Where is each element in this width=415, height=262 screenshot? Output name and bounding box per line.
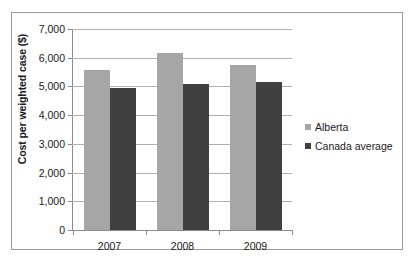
x-tick-label: 2008 bbox=[171, 240, 194, 252]
bar-alberta-2007 bbox=[84, 70, 110, 230]
y-tick-mark bbox=[68, 144, 72, 145]
x-tick-2008: 2008 bbox=[146, 236, 219, 254]
y-tick-label: 4,000 bbox=[39, 109, 65, 121]
x-tick-2007: 2007 bbox=[73, 236, 146, 254]
y-tick-label: 0 bbox=[59, 224, 65, 236]
legend-item-canada-average: Canada average bbox=[305, 140, 393, 152]
x-tick-mark bbox=[292, 230, 293, 235]
bar-group-2007 bbox=[73, 29, 146, 230]
y-tick-mark bbox=[68, 201, 72, 202]
bar-canada-average-2009 bbox=[256, 82, 282, 230]
bar-group-2008 bbox=[146, 29, 219, 230]
bar-group-2009 bbox=[219, 29, 292, 230]
y-axis-title: Cost per weighted case ($) bbox=[16, 4, 28, 194]
legend-swatch-icon bbox=[305, 124, 311, 130]
bar-alberta-2008 bbox=[157, 53, 183, 230]
y-tick-label: 3,000 bbox=[39, 138, 65, 150]
bar-chart-figure: Cost per weighted case ($) 01,0002,0003,… bbox=[0, 0, 415, 262]
x-tick-mark bbox=[73, 230, 74, 235]
bar-alberta-2009 bbox=[230, 65, 256, 230]
y-tick-label: 6,000 bbox=[39, 52, 65, 64]
y-tick-label: 7,000 bbox=[39, 23, 65, 35]
y-tick-mark bbox=[68, 29, 72, 30]
bar-canada-average-2007 bbox=[110, 88, 136, 230]
x-tick-label: 2007 bbox=[98, 240, 121, 252]
x-tick-mark bbox=[219, 230, 220, 235]
y-tick-mark bbox=[68, 115, 72, 116]
x-tick-2009: 2009 bbox=[219, 236, 292, 254]
legend-label: Canada average bbox=[315, 140, 393, 152]
x-axis-line bbox=[72, 230, 293, 231]
legend-item-alberta: Alberta bbox=[305, 121, 393, 133]
legend: AlbertaCanada average bbox=[305, 121, 393, 152]
y-tick-label: 5,000 bbox=[39, 80, 65, 92]
x-tick-label: 2009 bbox=[244, 240, 267, 252]
bar-canada-average-2008 bbox=[183, 84, 209, 230]
y-tick-mark bbox=[68, 58, 72, 59]
y-tick-mark bbox=[68, 86, 72, 87]
x-axis-labels: 200720082009 bbox=[73, 236, 292, 254]
x-tick-mark bbox=[146, 230, 147, 235]
legend-label: Alberta bbox=[315, 121, 348, 133]
legend-swatch-icon bbox=[305, 143, 311, 149]
y-tick-label: 1,000 bbox=[39, 195, 65, 207]
bars-layer bbox=[73, 29, 292, 230]
y-tick-mark bbox=[68, 173, 72, 174]
plot-area: 01,0002,0003,0004,0005,0006,0007,000 bbox=[72, 29, 292, 230]
y-tick-label: 2,000 bbox=[39, 167, 65, 179]
